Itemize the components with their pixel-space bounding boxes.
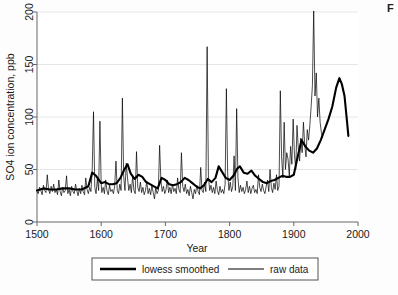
y-tick-label-50: 50 xyxy=(23,164,35,176)
x-axis-title: Year xyxy=(186,242,208,254)
y-axis-title: SO4 ion concentration, ppb xyxy=(4,53,16,180)
chart-legend: lowess smoothed raw data xyxy=(92,258,318,280)
y-tick-label-200: 200 xyxy=(23,3,35,21)
x-tick-label-1600: 1600 xyxy=(90,228,114,240)
x-tick-label-1500: 1500 xyxy=(25,228,49,240)
so4-concentration-line-chart: 050100150200 150016001700180019002000 Ye… xyxy=(0,0,398,295)
y-tick-label-150: 150 xyxy=(23,56,35,74)
x-tick-label-1700: 1700 xyxy=(154,228,178,240)
y-tick-label-100: 100 xyxy=(23,108,35,126)
x-tick-label-1800: 1800 xyxy=(218,228,242,240)
y-tick-label-0: 0 xyxy=(23,219,35,225)
figure-caption-fragment: F xyxy=(387,2,396,14)
x-tick-label-2000: 2000 xyxy=(346,228,370,240)
legend-label-lowess-smoothed: lowess smoothed xyxy=(142,264,219,275)
legend-label-raw-data: raw data xyxy=(270,264,309,275)
figure-container: 050100150200 150016001700180019002000 Ye… xyxy=(0,0,398,295)
x-tick-label-1900: 1900 xyxy=(282,228,306,240)
